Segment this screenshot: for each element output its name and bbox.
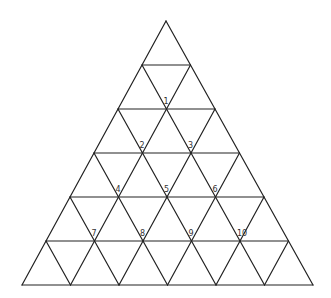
vertex-label: 3 <box>188 141 193 150</box>
vertex-label: 5 <box>164 185 169 194</box>
vertex-label: 8 <box>140 229 145 238</box>
vertex-label: 7 <box>92 229 97 238</box>
diagonal-line <box>46 241 71 285</box>
vertex-label: 6 <box>213 185 218 194</box>
grid-lines <box>22 21 313 285</box>
diagonal-line <box>71 65 191 285</box>
diagonal-line <box>265 241 289 285</box>
vertex-label: 2 <box>140 141 145 150</box>
diagonal-line <box>94 153 168 285</box>
grid-canvas: 12345678910 <box>0 0 331 298</box>
vertex-label: 1 <box>164 97 169 106</box>
vertex-label: 10 <box>237 229 247 238</box>
diagonal-line <box>168 153 240 285</box>
vertex-label: 4 <box>116 185 121 194</box>
triangular-grid-diagram: 12345678910 <box>0 0 331 298</box>
diagonal-line <box>142 65 265 285</box>
vertex-label: 9 <box>189 229 194 238</box>
vertex-labels: 12345678910 <box>92 97 248 238</box>
